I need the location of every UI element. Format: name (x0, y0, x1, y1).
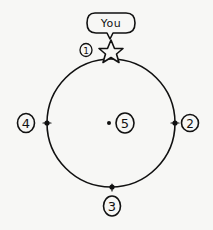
svg-text:3: 3 (108, 199, 116, 214)
svg-text:2: 2 (186, 117, 194, 131)
position-1-label: 1 (80, 44, 92, 57)
position-3-label: 3 (104, 196, 121, 216)
you-speech-bubble: You (87, 13, 135, 39)
position-5-dot (107, 121, 111, 125)
svg-text:5: 5 (121, 116, 129, 131)
you-label: You (100, 17, 121, 30)
circle-position-diagram: You 1 4 2 3 5 (0, 0, 213, 230)
position-4-label: 4 (18, 114, 35, 133)
position-2-label: 2 (182, 115, 199, 132)
svg-text:1: 1 (83, 46, 89, 56)
svg-text:4: 4 (22, 116, 30, 131)
position-5-label: 5 (116, 113, 134, 133)
